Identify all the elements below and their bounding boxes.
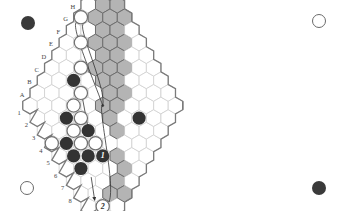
col-label-A: A [20, 91, 25, 98]
black-stone-B5 [60, 137, 73, 150]
row-label-2: 2 [25, 121, 28, 128]
white-stone-F3 [74, 61, 87, 74]
white-stone-D4 [67, 99, 80, 112]
col-label-G: G [63, 15, 68, 22]
white-stone-D7 [89, 137, 102, 150]
row-label-6: 6 [54, 172, 58, 179]
col-label-H: H [71, 3, 76, 10]
white-stone-D5 [74, 112, 87, 125]
row-label-1: 1 [17, 109, 20, 116]
row-label-5: 5 [47, 159, 50, 166]
col-label-C: C [34, 66, 38, 73]
row-label-3: 3 [32, 134, 35, 141]
white-stone-E4 [74, 86, 87, 99]
row-label-9: 9 [76, 210, 79, 212]
black-stone-B6 [67, 149, 80, 162]
white-stone-G2 [74, 36, 87, 49]
connection-dot [102, 105, 104, 107]
white-stone-A4 [45, 137, 58, 150]
col-label-E: E [49, 40, 53, 47]
black-stone-E3 [67, 74, 80, 87]
white-stone-H1 [74, 11, 87, 24]
hex-board: ABCDEFGHIJK123456789101112 [0, 0, 344, 211]
corner-stone-bottom-left [20, 181, 34, 195]
black-stone-H9 [133, 112, 146, 125]
move-number-label: 2 [100, 202, 105, 211]
col-label-F: F [57, 28, 61, 35]
corner-stone-bottom-right [312, 181, 326, 195]
white-stone-C6 [74, 137, 87, 150]
col-label-B: B [27, 78, 32, 85]
white-stone-C5 [67, 124, 80, 137]
row-label-7: 7 [61, 184, 65, 191]
black-stone-B7 [74, 162, 87, 175]
col-label-D: D [41, 53, 46, 60]
move-number-label: 1 [101, 151, 105, 160]
row-label-4: 4 [39, 147, 43, 154]
corner-stone-top-right [312, 14, 326, 28]
corner-stone-top-left [21, 16, 35, 30]
row-label-8: 8 [68, 197, 71, 204]
black-stone-D6 [82, 124, 95, 137]
black-stone-C4 [60, 112, 73, 125]
black-stone-C7 [82, 149, 95, 162]
